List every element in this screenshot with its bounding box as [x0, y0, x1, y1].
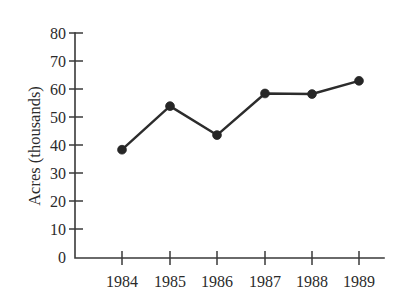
y-tick-label: 10 [50, 221, 66, 238]
x-tick-label: 1986 [201, 273, 233, 290]
data-point [308, 90, 317, 99]
line-chart: Acres (thousands) 0 10 20 30 40 50 60 70… [0, 0, 399, 308]
data-point [118, 145, 127, 154]
x-tick-label: 1989 [343, 273, 375, 290]
chart-canvas: Acres (thousands) 0 10 20 30 40 50 60 70… [0, 0, 399, 308]
x-axis-tick-labels: 1984 1985 1986 1987 1988 1989 [106, 273, 375, 290]
y-tick-label: 60 [50, 81, 66, 98]
y-tick-label: 0 [58, 249, 66, 266]
y-tick-label: 80 [50, 25, 66, 42]
y-tick-label: 40 [50, 137, 66, 154]
y-tick-label: 50 [50, 109, 66, 126]
x-tick-label: 1987 [249, 273, 281, 290]
x-tick-label: 1985 [154, 273, 186, 290]
data-point [355, 76, 364, 85]
y-axis-tick-labels: 0 10 20 30 40 50 60 70 80 [50, 25, 66, 266]
y-tick-label: 20 [50, 193, 66, 210]
data-point [213, 131, 222, 140]
y-tick-label: 70 [50, 53, 66, 70]
y-tick-label: 30 [50, 165, 66, 182]
x-tick-label: 1984 [106, 273, 138, 290]
data-point [166, 102, 175, 111]
y-axis-title: Acres (thousands) [25, 86, 44, 206]
series-line [122, 81, 359, 150]
y-axis-ticks [69, 33, 83, 229]
x-tick-label: 1988 [296, 273, 328, 290]
data-point [261, 89, 270, 98]
